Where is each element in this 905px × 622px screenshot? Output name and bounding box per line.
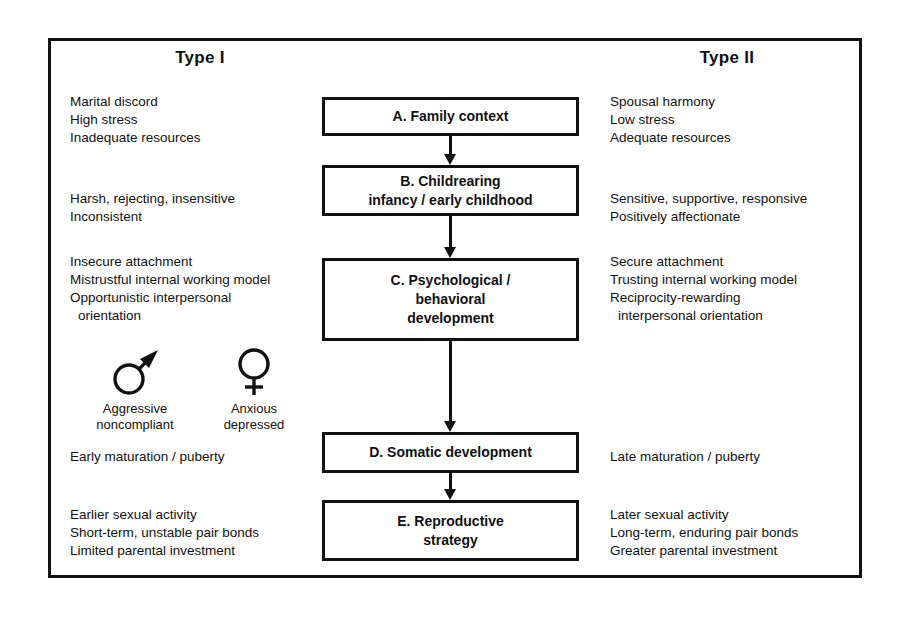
left-text-block-childrearing: Harsh, rejecting, insensitive Inconsiste… <box>70 190 235 226</box>
text-line: development <box>391 309 511 328</box>
male-outcome-group: Aggressive noncompliant <box>72 345 198 433</box>
text-line: Reciprocity-rewarding <box>610 289 797 307</box>
text-line: Marital discord <box>70 93 201 111</box>
text-line: Mistrustful internal working model <box>70 271 270 289</box>
female-outcome-group: Anxious depressed <box>198 345 310 433</box>
text-line: Positively affectionate <box>610 208 807 226</box>
female-symbol-icon <box>198 345 310 399</box>
text-line: interpersonal orientation <box>610 307 797 325</box>
left-text-block-reproductive-strategy: Earlier sexual activity Short-term, unst… <box>70 506 259 560</box>
text-line: Anxious <box>198 401 310 417</box>
text-line: behavioral <box>391 290 511 309</box>
left-text-block-psychological-behavioral: Insecure attachment Mistrustful internal… <box>70 253 270 325</box>
text-line: C. Psychological / <box>391 271 511 290</box>
text-line: noncompliant <box>72 417 198 433</box>
arrow-a-to-b-icon <box>444 136 457 165</box>
flow-box-d: D. Somatic development <box>322 432 579 473</box>
male-outcome-label: Aggressive noncompliant <box>72 401 198 433</box>
arrow-head <box>444 154 456 165</box>
text-line: Aggressive <box>72 401 198 417</box>
female-outcome-label: Anxious depressed <box>198 401 310 433</box>
flow-box-a-text: A. Family context <box>387 107 515 126</box>
flow-box-b-text: B. Childrearing infancy / early childhoo… <box>362 172 538 210</box>
right-text-block-reproductive-strategy: Later sexual activity Long-term, endurin… <box>610 506 798 560</box>
figure-canvas: Type I Type II Marital discord High stre… <box>0 0 905 622</box>
text-line: Early maturation / puberty <box>70 448 225 466</box>
flow-box-b: B. Childrearing infancy / early childhoo… <box>322 165 579 216</box>
text-line: Long-term, enduring pair bonds <box>610 524 798 542</box>
text-line: orientation <box>70 307 270 325</box>
flow-box-e-text: E. Reproductive strategy <box>391 512 510 550</box>
text-line: infancy / early childhood <box>368 191 532 210</box>
text-line: Earlier sexual activity <box>70 506 259 524</box>
flow-box-a: A. Family context <box>322 97 579 136</box>
text-line: Trusting internal working model <box>610 271 797 289</box>
flow-box-e: E. Reproductive strategy <box>322 500 579 561</box>
text-line: Inadequate resources <box>70 129 201 147</box>
text-line: Insecure attachment <box>70 253 270 271</box>
text-line: Harsh, rejecting, insensitive <box>70 190 235 208</box>
text-line: High stress <box>70 111 201 129</box>
text-line: Late maturation / puberty <box>610 448 760 466</box>
text-line: Sensitive, supportive, responsive <box>610 190 807 208</box>
arrow-shaft <box>449 341 452 421</box>
column-header-type-i: Type I <box>150 48 250 68</box>
arrow-b-to-c-icon <box>444 216 457 258</box>
text-line: Later sexual activity <box>610 506 798 524</box>
right-text-block-somatic-development: Late maturation / puberty <box>610 448 760 466</box>
left-text-block-somatic-development: Early maturation / puberty <box>70 448 225 466</box>
arrow-c-to-d-icon <box>444 341 457 432</box>
text-line: Low stress <box>610 111 731 129</box>
right-text-block-psychological-behavioral: Secure attachment Trusting internal work… <box>610 253 797 325</box>
text-line: strategy <box>397 531 504 550</box>
right-text-block-family-context: Spousal harmony Low stress Adequate reso… <box>610 93 731 147</box>
text-line: E. Reproductive <box>397 512 504 531</box>
text-line: Adequate resources <box>610 129 731 147</box>
arrow-head <box>444 489 456 500</box>
right-text-block-childrearing: Sensitive, supportive, responsive Positi… <box>610 190 807 226</box>
column-header-type-ii: Type II <box>672 48 782 68</box>
text-line: Spousal harmony <box>610 93 731 111</box>
text-line: Secure attachment <box>610 253 797 271</box>
flow-box-c-text: C. Psychological / behavioral developmen… <box>385 271 517 328</box>
text-line: D. Somatic development <box>369 444 532 460</box>
text-line: Opportunistic interpersonal <box>70 289 270 307</box>
text-line: A. Family context <box>393 108 509 124</box>
text-line: B. Childrearing <box>368 172 532 191</box>
text-line: Limited parental investment <box>70 542 259 560</box>
text-line: Short-term, unstable pair bonds <box>70 524 259 542</box>
text-line: depressed <box>198 417 310 433</box>
text-line: Greater parental investment <box>610 542 798 560</box>
arrow-head <box>444 421 456 432</box>
arrow-shaft <box>449 473 452 489</box>
male-symbol-icon <box>72 345 198 399</box>
arrow-shaft <box>449 216 452 247</box>
arrow-head <box>444 247 456 258</box>
arrow-shaft <box>449 136 452 154</box>
arrow-d-to-e-icon <box>444 473 457 500</box>
text-line: Inconsistent <box>70 208 235 226</box>
left-text-block-family-context: Marital discord High stress Inadequate r… <box>70 93 201 147</box>
flow-box-d-text: D. Somatic development <box>363 443 538 462</box>
flow-box-c: C. Psychological / behavioral developmen… <box>322 258 579 341</box>
